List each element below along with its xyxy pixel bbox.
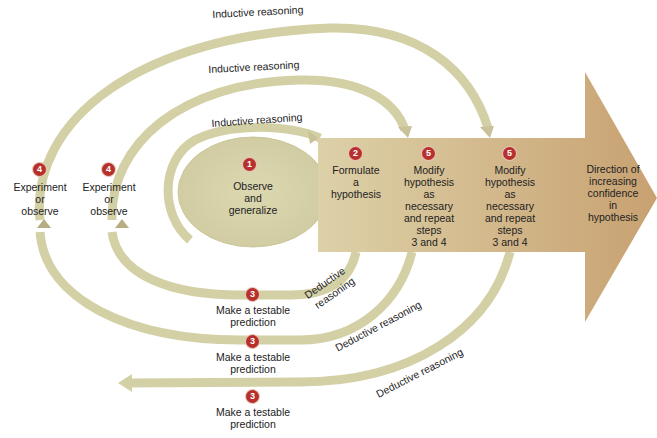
step-1-badge: 1 bbox=[243, 158, 256, 171]
step-2-badge: 2 bbox=[349, 147, 362, 160]
direction-label: Direction of increasing confidence in hy… bbox=[574, 163, 652, 223]
step-3-label-first: Make a testable prediction bbox=[210, 304, 296, 328]
step-3-badge-third: 3 bbox=[246, 390, 259, 403]
step-3-label-second: Make a testable prediction bbox=[210, 351, 296, 375]
outer-arrowhead-left bbox=[118, 374, 132, 392]
step-5-label-first: Modify hypothesis as necessary and repea… bbox=[389, 164, 469, 248]
step-1-label: Observe and generalize bbox=[213, 180, 293, 216]
outer-deductive-loop bbox=[125, 252, 510, 383]
step-5-badge-first: 5 bbox=[422, 147, 435, 160]
step-4-label-outer: Experiment or observe bbox=[4, 181, 76, 217]
step-5-badge-second: 5 bbox=[503, 147, 516, 160]
step-3-label-third: Make a testable prediction bbox=[210, 406, 296, 430]
step-4-badge-inner: 4 bbox=[102, 163, 115, 176]
diagram-graphics bbox=[0, 0, 657, 438]
scientific-method-diagram: Inductive reasoning Inductive reasoning … bbox=[0, 0, 657, 438]
step-3-badge-second: 3 bbox=[246, 335, 259, 348]
step-4-label-inner: Experiment or observe bbox=[73, 181, 145, 217]
step-4-badge-outer: 4 bbox=[33, 163, 46, 176]
step-3-badge-first: 3 bbox=[246, 288, 259, 301]
step-2-label: Formulate a hypothesis bbox=[318, 164, 394, 200]
step-5-label-second: Modify hypothesis as necessary and repea… bbox=[470, 164, 550, 248]
